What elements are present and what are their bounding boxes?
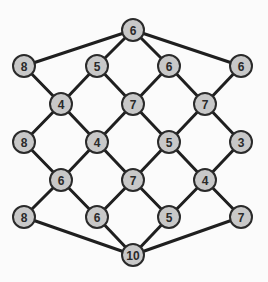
number-lattice-diagram: 685664778453674865710: [0, 0, 268, 282]
node-label: 5: [94, 60, 101, 74]
node-label: 6: [130, 24, 137, 38]
graph-node: 7: [230, 206, 252, 228]
node-label: 3: [238, 136, 245, 150]
graph-node: 6: [86, 206, 108, 228]
graph-node: 8: [13, 55, 35, 77]
node-label: 6: [166, 60, 173, 74]
node-label: 4: [94, 136, 101, 150]
node-label: 10: [126, 249, 140, 263]
graph-node: 10: [122, 244, 144, 266]
node-label: 4: [58, 98, 65, 112]
graph-node: 7: [194, 93, 216, 115]
graph-node: 8: [13, 206, 35, 228]
graph-node: 3: [230, 131, 252, 153]
node-label: 8: [21, 60, 28, 74]
graph-node: 5: [158, 206, 180, 228]
graph-node: 7: [122, 169, 144, 191]
node-label: 8: [21, 136, 28, 150]
node-label: 7: [202, 98, 209, 112]
node-label: 6: [94, 211, 101, 225]
graph-node: 4: [86, 131, 108, 153]
node-label: 6: [238, 60, 245, 74]
node-label: 7: [238, 211, 245, 225]
graph-node: 8: [13, 131, 35, 153]
node-label: 7: [130, 174, 137, 188]
node-label: 5: [166, 211, 173, 225]
diagram-background: [0, 0, 268, 282]
graph-node: 4: [50, 93, 72, 115]
graph-node: 7: [122, 93, 144, 115]
graph-node: 6: [158, 55, 180, 77]
node-label: 4: [202, 174, 209, 188]
node-label: 5: [166, 136, 173, 150]
graph-node: 6: [122, 19, 144, 41]
graph-node: 5: [158, 131, 180, 153]
graph-node: 5: [86, 55, 108, 77]
graph-node: 4: [194, 169, 216, 191]
node-label: 8: [21, 211, 28, 225]
graph-node: 6: [50, 169, 72, 191]
node-label: 6: [58, 174, 65, 188]
node-label: 7: [130, 98, 137, 112]
graph-node: 6: [230, 55, 252, 77]
